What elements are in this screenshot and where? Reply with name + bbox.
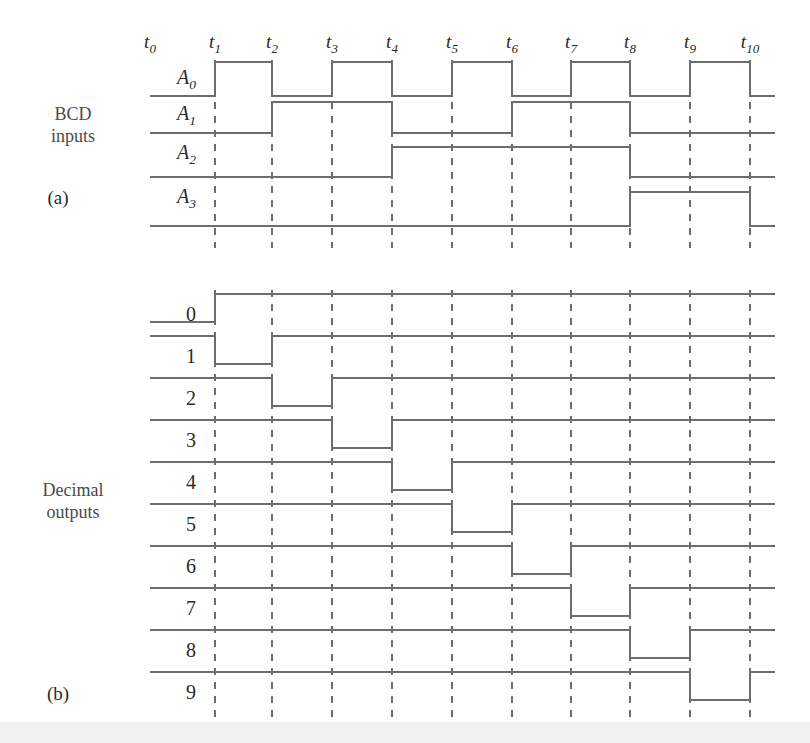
- output-label-7: 7: [186, 597, 196, 619]
- decimal-outputs-group-label-line1: Decimal: [43, 480, 104, 500]
- signal-name-labels: A0A1A2A30123456789: [175, 66, 196, 703]
- waveform-input-A1: [150, 102, 775, 133]
- part-b-label: (b): [47, 683, 69, 705]
- waveform-input-A3: [150, 192, 775, 226]
- waveform-output-5: [150, 504, 775, 532]
- waveform-output-1: [150, 336, 775, 364]
- time-tick-lines-inputs: [215, 60, 750, 248]
- waveform-output-2: [150, 378, 775, 406]
- output-label-2: 2: [186, 387, 196, 409]
- output-label-4: 4: [186, 471, 196, 493]
- bcd-input-waveforms: [150, 62, 775, 226]
- waveform-output-7: [150, 588, 775, 616]
- output-label-1: 1: [186, 345, 196, 367]
- time-label-t9: t9: [684, 31, 696, 56]
- bcd-inputs-group-label-line2: inputs: [51, 126, 95, 146]
- output-label-6: 6: [186, 555, 196, 577]
- time-label-t2: t2: [266, 31, 278, 56]
- waveform-input-A2: [150, 147, 775, 177]
- time-label-t7: t7: [565, 31, 577, 56]
- decimal-outputs-group-label-line2: outputs: [46, 502, 99, 522]
- time-label-t6: t6: [506, 31, 518, 56]
- waveform-output-8: [150, 630, 775, 658]
- time-label-t5: t5: [446, 31, 458, 56]
- waveform-output-4: [150, 462, 775, 490]
- output-label-8: 8: [186, 639, 196, 661]
- signal-label-A3: A3: [175, 185, 196, 211]
- output-label-9: 9: [186, 681, 196, 703]
- bcd-inputs-group-label-line1: BCD: [54, 104, 91, 124]
- time-axis-labels: t0t1t2t3t4t5t6t7t8t9t10: [144, 31, 760, 56]
- waveform-output-0: [150, 294, 775, 322]
- decimal-output-waveforms: [150, 294, 775, 700]
- output-label-5: 5: [186, 513, 196, 535]
- waveform-output-6: [150, 546, 775, 574]
- output-label-0: 0: [186, 303, 196, 325]
- time-label-t4: t4: [386, 31, 398, 56]
- timing-diagram-canvas: t0t1t2t3t4t5t6t7t8t9t10 A0A1A2A301234567…: [0, 0, 810, 743]
- part-a-label: (a): [47, 187, 68, 209]
- waveform-input-A0: [150, 62, 775, 96]
- signal-label-A1: A1: [175, 102, 196, 128]
- timing-diagram-figure: t0t1t2t3t4t5t6t7t8t9t10 A0A1A2A301234567…: [0, 0, 810, 743]
- waveform-output-9: [150, 672, 775, 700]
- time-label-t8: t8: [624, 31, 636, 56]
- time-label-t3: t3: [326, 31, 338, 56]
- waveform-output-3: [150, 420, 775, 448]
- time-label-t1: t1: [209, 31, 221, 56]
- output-label-3: 3: [186, 429, 196, 451]
- signal-label-A0: A0: [175, 66, 196, 92]
- bottom-margin-band: [0, 722, 810, 743]
- time-label-t10: t10: [741, 31, 760, 56]
- signal-label-A2: A2: [175, 141, 196, 167]
- time-label-t0: t0: [144, 31, 156, 56]
